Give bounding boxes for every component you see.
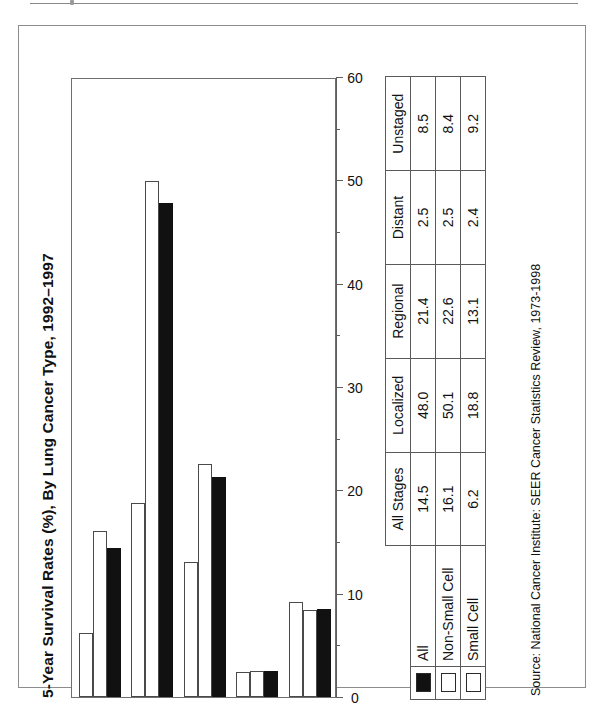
chart-title: 5-Year Survival Rates (%), By Lung Cance… — [39, 78, 57, 698]
bar-all-unstaged — [317, 609, 331, 697]
table-cell: 48.0 — [411, 358, 436, 452]
bar-small-cell-all-stages — [79, 633, 93, 697]
bar-small-cell-regional — [184, 562, 198, 697]
table-row-label: All — [411, 546, 436, 667]
bar-non-small-cell-unstaged — [303, 610, 317, 697]
table-header-row: All StagesLocalizedRegionalDistantUnstag… — [386, 77, 411, 700]
table-cell: 22.6 — [436, 264, 461, 358]
axis-tick — [336, 387, 343, 388]
bar-group — [72, 79, 125, 697]
table-cell: 13.1 — [461, 264, 486, 358]
legend-swatch-cell — [411, 667, 436, 700]
table-row: All14.548.021.42.58.5 — [411, 77, 436, 700]
table-cell: 8.5 — [411, 77, 436, 171]
table-header-distant: Distant — [386, 171, 411, 264]
table-row-label: Small Cell — [461, 546, 486, 667]
rotated-figure-canvas: 5-Year Survival Rates (%), By Lung Cance… — [33, 68, 573, 708]
axis-tick — [336, 180, 343, 181]
plot-area — [71, 78, 336, 698]
axis-line — [336, 78, 337, 698]
table-cell: 50.1 — [436, 358, 461, 452]
axis-tick — [336, 77, 343, 78]
data-table: All StagesLocalizedRegionalDistantUnstag… — [385, 76, 486, 700]
bar-non-small-cell-distant — [250, 671, 264, 697]
table-cell: 2.4 — [461, 171, 486, 264]
table-row: Small Cell6.218.813.12.49.2 — [461, 77, 486, 700]
bar-non-small-cell-all-stages — [93, 531, 107, 697]
axis-tick-minor — [336, 129, 340, 130]
axis-tick-label: 40 — [343, 277, 367, 293]
bar-all-distant — [264, 671, 278, 697]
bar-group — [177, 79, 230, 697]
table-corner-label — [386, 546, 411, 667]
axis-tick-minor — [336, 439, 340, 440]
page-corner-mark — [70, 0, 74, 5]
axis-tick-minor — [336, 542, 340, 543]
axis-tick-label: 10 — [343, 587, 367, 603]
table-cell: 2.5 — [436, 171, 461, 264]
data-table-wrapper: All StagesLocalizedRegionalDistantUnstag… — [385, 76, 486, 700]
value-axis: 0102030405060 — [336, 78, 376, 698]
bar-small-cell-unstaged — [289, 602, 303, 697]
bar-group — [230, 79, 283, 697]
axis-tick-label: 30 — [343, 380, 367, 396]
bar-all-localized — [159, 203, 173, 697]
header-rule — [30, 3, 578, 4]
axis-tick — [336, 284, 343, 285]
table-cell: 16.1 — [436, 452, 461, 545]
bars-layer — [72, 79, 335, 697]
table-cell: 14.5 — [411, 452, 436, 545]
table-cell: 9.2 — [461, 77, 486, 171]
axis-tick-minor — [336, 335, 340, 336]
table-header-unstaged: Unstaged — [386, 77, 411, 171]
bar-non-small-cell-regional — [198, 464, 212, 697]
source-note: Source: National Cancer Institute: SEER … — [529, 264, 543, 696]
bar-non-small-cell-localized — [145, 181, 159, 697]
axis-tick-minor — [336, 232, 340, 233]
axis-tick-label: 50 — [343, 173, 367, 189]
bar-all-regional — [212, 477, 226, 697]
table-corner-swatch — [386, 667, 411, 700]
table-header-localized: Localized — [386, 358, 411, 452]
table-cell: 8.4 — [436, 77, 461, 171]
table-row-label: Non-Small Cell — [436, 546, 461, 667]
table-header-regional: Regional — [386, 264, 411, 358]
axis-tick-label: 20 — [343, 483, 367, 499]
page-frame: 5-Year Survival Rates (%), By Lung Cance… — [18, 25, 586, 688]
table-cell: 21.4 — [411, 264, 436, 358]
axis-tick — [336, 594, 343, 595]
axis-tick-label: 0 — [343, 690, 367, 706]
table-header-all-stages: All Stages — [386, 452, 411, 545]
table-body: All14.548.021.42.58.5Non-Small Cell16.15… — [411, 77, 486, 700]
hollow-white-swatch-icon — [466, 674, 481, 693]
bar-group — [125, 79, 178, 697]
bar-small-cell-localized — [131, 503, 145, 697]
table-cell: 2.5 — [411, 171, 436, 264]
axis-tick — [336, 697, 343, 698]
legend-swatch-cell — [436, 667, 461, 700]
table-row: Non-Small Cell16.150.122.62.58.4 — [436, 77, 461, 700]
bar-all-all-stages — [107, 548, 121, 697]
table-cell: 18.8 — [461, 358, 486, 452]
axis-tick — [336, 490, 343, 491]
legend-swatch-cell — [461, 667, 486, 700]
axis-tick-label: 60 — [343, 70, 367, 86]
solid-black-swatch-icon — [416, 674, 431, 693]
bar-group — [282, 79, 335, 697]
axis-tick-minor — [336, 645, 340, 646]
hollow-white-swatch-icon — [441, 674, 456, 693]
table-cell: 6.2 — [461, 452, 486, 545]
bar-small-cell-distant — [236, 672, 250, 697]
